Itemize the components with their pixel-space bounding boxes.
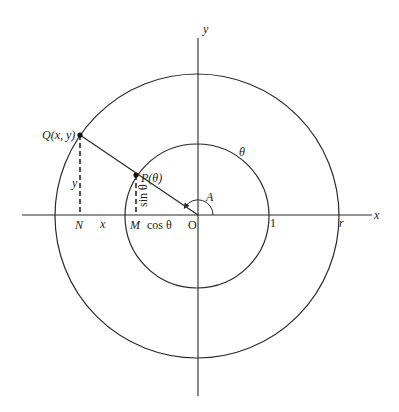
y-axis-label: y — [202, 22, 209, 36]
point-P — [133, 172, 138, 177]
segment-y-label: y — [71, 176, 78, 190]
point-Q — [77, 132, 82, 137]
x-axis-label: x — [373, 208, 380, 222]
unit-tick-label: 1 — [270, 216, 276, 230]
diagram-canvas: y x O A θ P(θ) Q(x, y) N M x y cos θ sin… — [0, 0, 399, 412]
origin-label: O — [188, 218, 197, 232]
segment-x-label: x — [99, 217, 106, 231]
angle-label: A — [205, 190, 214, 204]
inner-unit-circle — [125, 144, 269, 288]
theta-arc-label: θ — [239, 145, 245, 159]
sin-theta-label: sin θ — [136, 184, 150, 207]
cos-theta-label: cos θ — [147, 218, 172, 232]
point-P-label: P(θ) — [140, 171, 162, 185]
outer-circle — [55, 74, 339, 358]
radius-tick-label: r — [339, 216, 344, 230]
foot-M-label: M — [129, 218, 141, 232]
foot-N-label: N — [74, 218, 84, 232]
point-Q-label: Q(x, y) — [42, 128, 75, 142]
unit-circle-diagram: y x O A θ P(θ) Q(x, y) N M x y cos θ sin… — [0, 0, 399, 412]
